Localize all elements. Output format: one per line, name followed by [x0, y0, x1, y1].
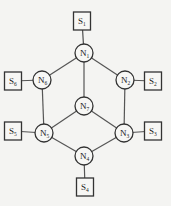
sink-s4: S4	[77, 178, 94, 196]
node-n6: N6	[33, 71, 51, 89]
node-n2: N2	[116, 71, 134, 89]
sink-s5: S5	[5, 122, 22, 140]
sink-s6: S6	[5, 72, 22, 90]
node-n7: N7	[75, 97, 93, 115]
node-circles: N1N2N3N4N5N6N7	[33, 44, 134, 165]
sink-s3: S3	[145, 122, 162, 140]
node-n3: N3	[115, 124, 133, 142]
sink-s2: S2	[145, 72, 162, 90]
network-diagram: S1S2S3S4S5S6 N1N2N3N4N5N6N7	[0, 0, 171, 206]
node-n1: N1	[75, 44, 93, 62]
node-n4: N4	[75, 147, 93, 165]
sink-s1: S1	[74, 12, 91, 30]
node-n5: N5	[35, 124, 53, 142]
